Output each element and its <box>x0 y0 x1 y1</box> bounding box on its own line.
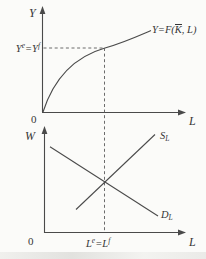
bottom-x-axis-label: L <box>189 236 196 248</box>
bottom-x-axis-arrow <box>178 230 186 236</box>
employment-sup2: f <box>108 236 110 245</box>
top-y-axis-arrow <box>40 6 46 14</box>
top-x-axis-label-text: L <box>189 114 196 128</box>
figure-canvas: Y Ye=Yf Y=F(K, L) 0 L W SL DL 0 Le=Lf L <box>0 0 206 259</box>
scan-artifact <box>0 252 206 259</box>
top-origin-text: 0 <box>31 113 37 125</box>
labor-supply-line <box>76 135 155 210</box>
curve-label-post: , L) <box>182 24 197 35</box>
curve-label-pre: Y=F( <box>152 24 175 35</box>
output-level-label: Ye=Yf <box>6 42 40 55</box>
top-x-axis-label: L <box>189 115 196 127</box>
bottom-y-axis-arrow <box>42 126 48 134</box>
supply-sub: L <box>165 134 169 143</box>
demand-base: D <box>161 209 169 220</box>
bottom-origin-text: 0 <box>28 235 34 247</box>
bottom-y-axis-label: W <box>25 130 35 142</box>
bottom-origin-label: 0 <box>28 236 34 247</box>
labor-demand-line <box>50 147 158 216</box>
employment-level-label: Le=Lf <box>86 237 110 250</box>
bottom-y-axis-label-text: W <box>25 129 35 143</box>
top-origin-label: 0 <box>31 114 37 125</box>
top-x-axis-arrow <box>178 110 186 116</box>
curve-label-kbar: K <box>175 24 182 36</box>
production-function-curve <box>43 31 151 113</box>
output-sup2: f <box>38 41 40 50</box>
bottom-x-axis-label-text: L <box>189 235 196 249</box>
demand-sub: L <box>169 213 173 222</box>
labor-supply-label: SL <box>160 131 169 143</box>
production-function-label: Y=F(K, L) <box>152 24 196 36</box>
top-y-axis-label: Y <box>29 7 36 19</box>
output-equals: = <box>25 43 32 54</box>
top-y-axis-label-text: Y <box>29 6 36 20</box>
labor-demand-label: DL <box>161 210 173 222</box>
